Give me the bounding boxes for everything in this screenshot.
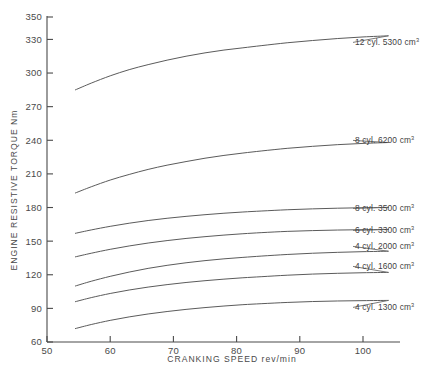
series-label-cylinders: 8 cyl.: [355, 203, 378, 213]
series-label-displacement: 5300 cm: [383, 37, 416, 47]
axes: [47, 16, 400, 342]
series-label-superscript: 3: [411, 203, 414, 209]
data-curve: [75, 300, 388, 328]
engine-resistive-torque-chart: 6090120150180210240270300330350506070809…: [0, 0, 439, 374]
y-tick-label: 180: [26, 202, 42, 213]
y-tick-label: 120: [26, 269, 42, 280]
series-label: 4 cyl. 1300 cm3: [355, 302, 414, 312]
series-label-cylinders: 6 cyl.: [355, 225, 378, 235]
series-labels: 12 cyl. 5300 cm38 cyl. 6200 cm38 cyl. 35…: [355, 37, 419, 312]
series-label-cylinders: 4 cyl.: [355, 302, 378, 312]
series-label-displacement: 1300 cm: [378, 302, 411, 312]
x-tick-label: 60: [105, 345, 116, 356]
y-tick-label: 210: [26, 168, 42, 179]
series-label: 8 cyl. 3500 cm3: [355, 203, 414, 213]
series-label-superscript: 3: [411, 302, 414, 308]
series-label-cylinders: 8 cyl.: [355, 135, 378, 145]
series-label-superscript: 3: [411, 225, 414, 231]
series-label: 8 cyl. 6200 cm3: [355, 135, 414, 145]
y-tick-label: 350: [26, 11, 42, 22]
y-tick-label: 90: [31, 303, 42, 314]
y-tick-label: 60: [31, 336, 42, 347]
data-curve: [75, 36, 388, 90]
y-tick-label: 150: [26, 236, 42, 247]
y-tick-label: 300: [26, 67, 42, 78]
series-label-cylinders: 12 cyl.: [355, 37, 383, 47]
data-curves: [75, 36, 388, 329]
series-label-displacement: 3300 cm: [378, 225, 411, 235]
y-axis-title: ENGINE RESISTIVE TORQUE Nm: [9, 110, 19, 271]
chart-container: 6090120150180210240270300330350506070809…: [0, 0, 439, 374]
series-label: 4 cyl. 2000 cm3: [355, 241, 414, 251]
y-tick-label: 330: [26, 34, 42, 45]
series-label-cylinders: 4 cyl.: [355, 261, 378, 271]
series-label-displacement: 1600 cm: [378, 261, 411, 271]
data-curve: [75, 272, 388, 301]
tick-labels: 6090120150180210240270300330350506070809…: [26, 11, 372, 356]
series-label-displacement: 6200 cm: [378, 135, 411, 145]
series-label-superscript: 3: [411, 241, 414, 247]
y-tick-label: 240: [26, 135, 42, 146]
series-label: 4 cyl. 1600 cm3: [355, 261, 414, 271]
data-curve: [75, 207, 388, 233]
series-label-displacement: 2000 cm: [378, 241, 411, 251]
series-label-cylinders: 4 cyl.: [355, 241, 378, 251]
tick-marks: [47, 17, 363, 342]
x-axis-title: CRANKING SPEED rev/min: [167, 354, 296, 364]
series-label: 6 cyl. 3300 cm3: [355, 225, 414, 235]
series-label-superscript: 3: [416, 37, 419, 43]
series-label-displacement: 3500 cm: [378, 203, 411, 213]
axis-titles: CRANKING SPEED rev/minENGINE RESISTIVE T…: [9, 110, 297, 364]
data-curve: [75, 143, 388, 193]
y-tick-label: 270: [26, 101, 42, 112]
data-curve: [75, 251, 388, 286]
series-label: 12 cyl. 5300 cm3: [355, 37, 419, 47]
x-tick-label: 100: [355, 345, 371, 356]
series-label-superscript: 3: [411, 135, 414, 141]
series-label-superscript: 3: [411, 261, 414, 267]
x-tick-label: 50: [42, 345, 53, 356]
